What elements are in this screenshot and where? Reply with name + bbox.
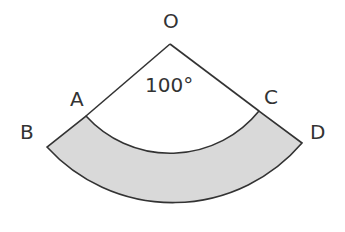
angle-label: 100° — [145, 73, 193, 97]
label-C: C — [264, 85, 278, 109]
label-D: D — [310, 120, 325, 144]
label-A: A — [70, 87, 84, 111]
shaded-ring-region — [47, 111, 302, 203]
label-B: B — [20, 120, 34, 144]
label-O: O — [163, 9, 179, 33]
sector-diagram: O A B C D 100° — [0, 0, 345, 232]
